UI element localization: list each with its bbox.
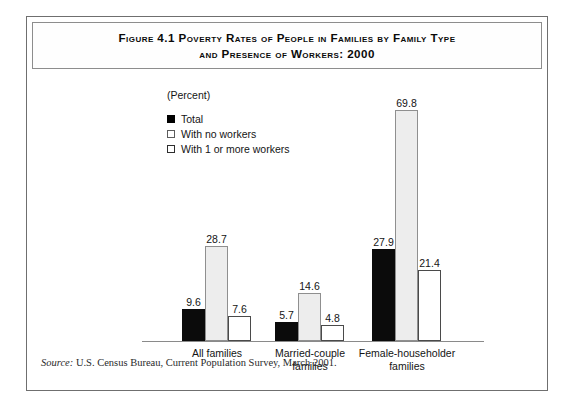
figure-frame: Figure 4.1 Poverty Rates of People in Fa… — [26, 16, 548, 391]
bar-value-female-householder-total: 27.9 — [373, 236, 393, 248]
bar-married-couple-no-workers: 14.6 — [298, 293, 321, 341]
bar-value-all-families-with-workers: 7.6 — [232, 303, 247, 315]
bar-value-all-families-no-workers: 28.7 — [206, 233, 226, 245]
bar-group-all-families: 9.6 28.7 7.6 — [182, 85, 251, 341]
figure-title-box: Figure 4.1 Poverty Rates of People in Fa… — [32, 22, 542, 69]
category-label-female-householder-families: Female-householder families — [343, 347, 471, 372]
bar-value-all-families-total: 9.6 — [186, 296, 201, 308]
bar-all-families-with-workers: 7.6 — [228, 316, 251, 341]
bar-female-householder-total: 27.9 — [372, 249, 395, 341]
bar-value-female-householder-with-workers: 21.4 — [419, 257, 439, 269]
bar-female-householder-no-workers: 69.8 — [395, 110, 418, 341]
bar-female-householder-with-workers: 21.4 — [418, 270, 441, 341]
bar-all-families-no-workers: 28.7 — [205, 246, 228, 341]
source-note-lead: Source: — [41, 357, 73, 368]
bar-group-female-householder-families: 27.9 69.8 21.4 — [372, 85, 441, 341]
bar-value-married-couple-total: 5.7 — [279, 309, 294, 321]
bar-married-couple-with-workers: 4.8 — [321, 325, 344, 341]
source-note-text: U.S. Census Bureau, Current Population S… — [73, 357, 336, 368]
x-axis-line — [142, 341, 484, 342]
figure-title-line-1: Figure 4.1 Poverty Rates of People in Fa… — [119, 30, 456, 46]
source-note: Source: U.S. Census Bureau, Current Popu… — [41, 357, 337, 368]
bar-group-married-couple-families: 5.7 14.6 4.8 — [275, 85, 344, 341]
bar-value-female-householder-no-workers: 69.8 — [396, 97, 416, 109]
bar-all-families-total: 9.6 — [182, 309, 205, 341]
bar-married-couple-total: 5.7 — [275, 322, 298, 341]
bar-value-married-couple-with-workers: 4.8 — [325, 312, 340, 324]
chart-plot-area: (Percent) Total With no workers With 1 o… — [27, 69, 547, 357]
figure-title-line-2: and Presence of Workers: 2000 — [199, 46, 375, 62]
bars-canvas: 9.6 28.7 7.6 5.7 14.6 4.8 — [27, 69, 547, 357]
bar-value-married-couple-no-workers: 14.6 — [299, 280, 319, 292]
